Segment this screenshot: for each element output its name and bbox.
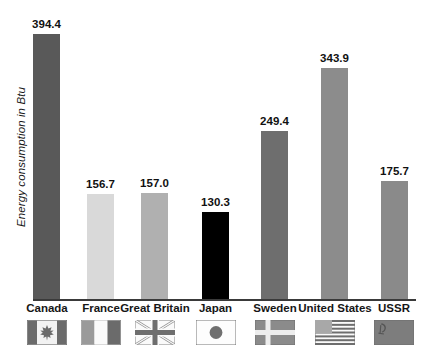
category-ussr[interactable]: USSR: [363, 301, 425, 345]
great-britain-flag-icon: [135, 320, 175, 345]
bar-value-ussr: 175.7: [380, 165, 409, 177]
bar-chart: Energy consumption in Btu 394.4 156.7 15…: [0, 0, 428, 364]
plot-area: 394.4 156.7 157.0 130.3 249.4 343.9: [0, 0, 428, 299]
flag-wrap-ussr: [363, 320, 425, 345]
japan-flag-icon: [196, 320, 236, 345]
flag-wrap-japan: [183, 320, 248, 345]
bar-fill-united-states: [321, 68, 348, 299]
bar-fill-great-britain: [141, 193, 168, 299]
bar-ussr[interactable]: 175.7: [381, 181, 408, 299]
category-japan[interactable]: Japan: [183, 301, 248, 345]
bar-great-britain[interactable]: 157.0: [141, 193, 168, 299]
bar-fill-france: [87, 194, 114, 299]
bar-value-france: 156.7: [86, 178, 115, 190]
bar-fill-ussr: [381, 181, 408, 299]
category-axis: Canada France: [0, 301, 428, 364]
bar-japan[interactable]: 130.3: [202, 212, 229, 299]
bar-value-japan: 130.3: [201, 196, 230, 208]
bar-value-great-britain: 157.0: [140, 177, 169, 189]
bar-fill-japan: [202, 212, 229, 299]
bar-france[interactable]: 156.7: [87, 194, 114, 299]
bar-value-canada: 394.4: [32, 18, 61, 30]
sweden-flag-icon: [255, 320, 295, 345]
bar-fill-sweden: [261, 131, 288, 299]
united-states-flag-icon: [315, 320, 355, 345]
bar-united-states[interactable]: 343.9: [321, 68, 348, 299]
bar-sweden[interactable]: 249.4: [261, 131, 288, 299]
bar-value-united-states: 343.9: [320, 52, 349, 64]
bar-value-sweden: 249.4: [260, 115, 289, 127]
ussr-flag-icon: [374, 320, 414, 345]
bar-canada[interactable]: 394.4: [33, 34, 60, 299]
category-label-japan: Japan: [183, 301, 248, 315]
canada-flag-icon: [27, 320, 67, 345]
bar-fill-canada: [33, 34, 60, 299]
category-label-ussr: USSR: [363, 301, 425, 315]
